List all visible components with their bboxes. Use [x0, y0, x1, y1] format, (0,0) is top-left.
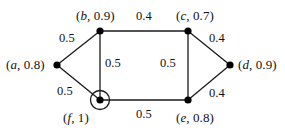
edge-weight-c-e: 0.5 [160, 57, 176, 70]
edge-weight-d-e: 0.4 [209, 87, 225, 100]
node-e[interactable] [184, 96, 191, 103]
node-a-separator: , [17, 57, 24, 72]
edge-weight-e-f: 0.5 [136, 108, 152, 121]
node-label-d: (d, 0.9) [238, 58, 277, 71]
node-layer [53, 27, 233, 103]
node-label-a: (a, 0.8) [6, 58, 45, 71]
node-label-e: (e, 0.8) [176, 111, 214, 124]
node-f[interactable] [96, 96, 103, 103]
edge-weight-b-c: 0.4 [136, 10, 152, 23]
node-d-value: 0.9 [256, 57, 273, 72]
edge-weight-b-f: 0.5 [105, 57, 121, 70]
node-d-paren-close: ) [272, 57, 276, 72]
node-e-paren-close: ) [210, 110, 214, 125]
node-b-value: 0.9 [94, 8, 111, 23]
node-label-f: (f, 1) [63, 111, 89, 124]
node-f-separator: , [71, 110, 78, 125]
node-label-c: (c, 0.7) [176, 9, 214, 22]
node-a[interactable] [53, 61, 60, 68]
node-b-paren-close: ) [110, 8, 114, 23]
node-b[interactable] [96, 27, 103, 34]
node-c-paren-close: ) [210, 8, 214, 23]
node-label-b: (b, 0.9) [76, 9, 115, 22]
node-c[interactable] [184, 27, 191, 34]
node-b-separator: , [87, 8, 94, 23]
node-d-separator: , [249, 57, 256, 72]
node-c-value: 0.7 [193, 8, 210, 23]
node-e-value: 0.8 [193, 110, 210, 125]
edge-weight-c-d: 0.4 [209, 32, 225, 45]
node-f-paren-close: ) [84, 110, 88, 125]
node-e-separator: , [186, 110, 193, 125]
edge-layer [57, 31, 230, 100]
graph-figure: (a, 0.8) (b, 0.9) (c, 0.7) (d, 0.9) (e, … [0, 0, 285, 130]
node-a-value: 0.8 [24, 57, 41, 72]
node-d[interactable] [226, 61, 233, 68]
edge-weight-a-b: 0.5 [59, 32, 75, 45]
edge-weight-a-f: 0.5 [57, 85, 73, 98]
node-a-paren-close: ) [40, 57, 44, 72]
node-c-separator: , [186, 8, 193, 23]
